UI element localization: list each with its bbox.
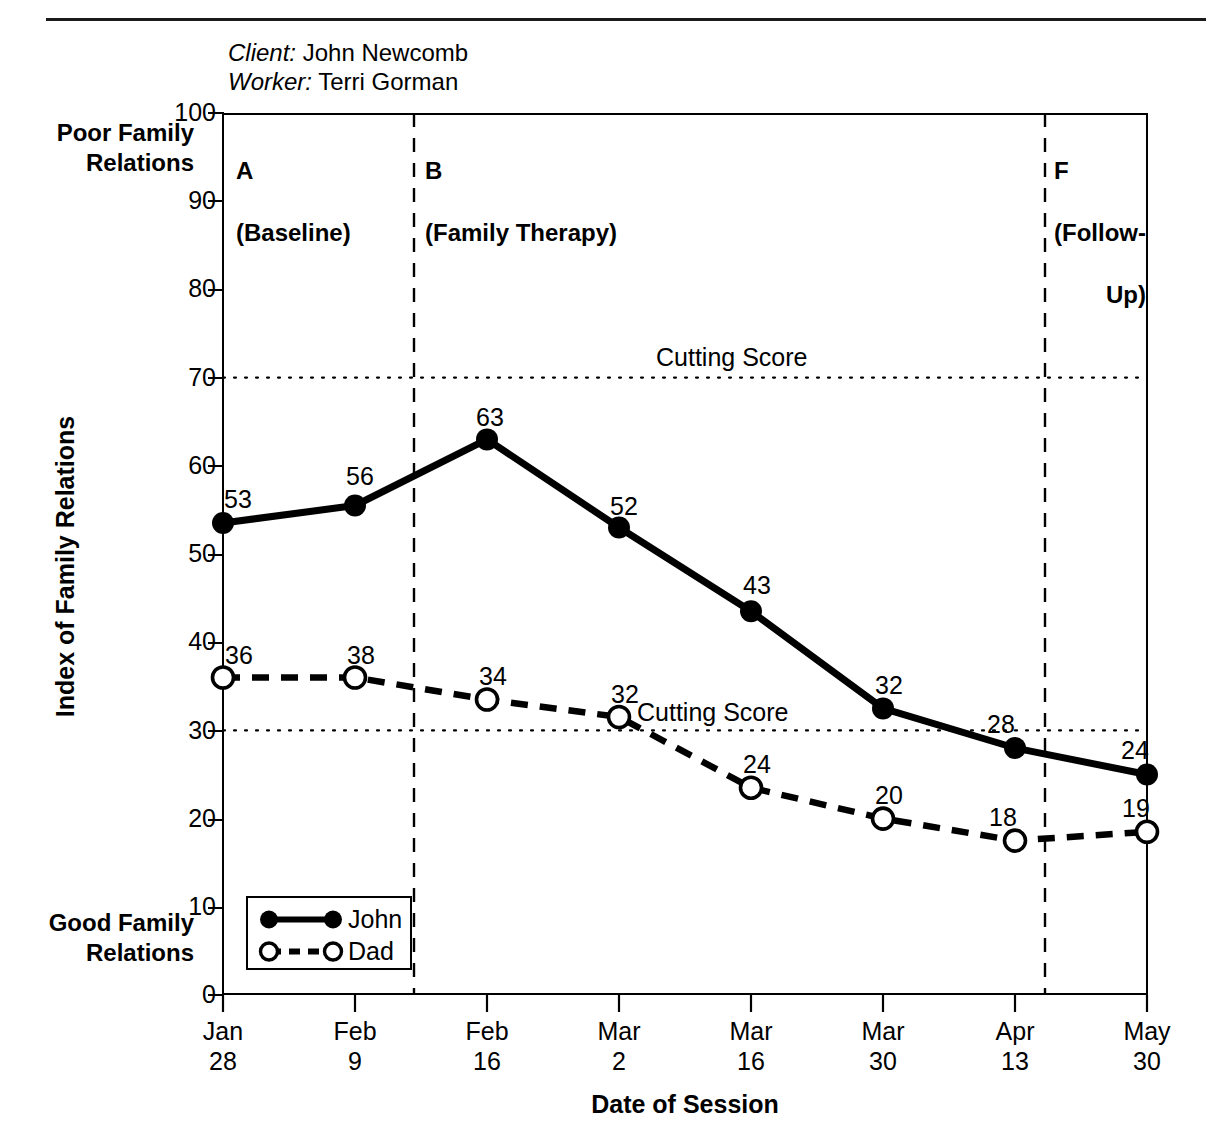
y-tick-label-30: 30 — [146, 718, 216, 743]
x-tick-day-6: 13 — [955, 1046, 1075, 1076]
value-label-dad-7: 19 — [1106, 796, 1166, 821]
x-tick-day-7: 30 — [1087, 1046, 1207, 1076]
x-tick-label-4: Mar 16 — [691, 1016, 811, 1076]
x-tick-day-4: 16 — [691, 1046, 811, 1076]
y-tickmark-30 — [208, 730, 224, 732]
y-tickmark-0 — [208, 994, 224, 996]
y-tickmark-80 — [208, 289, 224, 291]
y-tick-label-80: 80 — [146, 276, 216, 301]
x-tick-day-1: 9 — [295, 1046, 415, 1076]
x-tick-day-3: 2 — [559, 1046, 679, 1076]
value-label-dad-2: 34 — [463, 664, 523, 689]
x-tick-month-7: May — [1123, 1017, 1170, 1045]
y-tick-label-0: 0 — [146, 982, 216, 1007]
y-tick-label-70: 70 — [146, 365, 216, 390]
poor-family-relations-note: Poor FamilyRelations — [26, 118, 194, 178]
x-axis-title: Date of Session — [222, 1090, 1148, 1119]
phase-label-b: B (Family Therapy) — [425, 124, 617, 248]
x-tick-label-0: Jan 28 — [163, 1016, 283, 1076]
y-tick-label-50: 50 — [146, 541, 216, 566]
value-label-john-3: 52 — [594, 494, 654, 519]
x-tick-label-1: Feb 9 — [295, 1016, 415, 1076]
phase-b-letter: B — [425, 157, 442, 184]
value-label-dad-3: 32 — [595, 682, 655, 707]
y-tickmark-20 — [208, 819, 224, 821]
legend-item-john[interactable]: John — [248, 904, 414, 935]
legend-swatch-dad-dashed-line — [258, 936, 344, 967]
line-chart: Index of Family Relations Poor FamilyRel… — [0, 0, 1213, 1134]
legend-label-john: John — [348, 905, 402, 933]
y-tick-label-60: 60 — [146, 453, 216, 478]
y-tickmark-10 — [208, 907, 224, 909]
x-tick-label-7: May 30 — [1087, 1016, 1207, 1076]
x-tick-month-0: Jan — [203, 1017, 243, 1045]
y-tick-label-40: 40 — [146, 629, 216, 654]
y-tickmark-50 — [208, 554, 224, 556]
x-tick-month-4: Mar — [729, 1017, 772, 1045]
y-tickmark-70 — [208, 377, 224, 379]
x-tickmarks — [223, 995, 1147, 1012]
phase-a-letter: A — [236, 157, 253, 184]
phase-label-f: F (Follow- Up) — [1054, 124, 1146, 310]
phase-f-name-line1: (Follow- — [1054, 219, 1146, 246]
y-tick-label-10: 10 — [146, 894, 216, 919]
x-tick-month-5: Mar — [861, 1017, 904, 1045]
value-label-dad-5: 20 — [859, 783, 919, 808]
y-tickmark-60 — [208, 465, 224, 467]
value-label-dad-6: 18 — [973, 805, 1033, 830]
chart-legend: John Dad — [246, 896, 412, 970]
x-tick-month-2: Feb — [465, 1017, 508, 1045]
y-tick-label-90: 90 — [146, 188, 216, 213]
plot-area — [222, 113, 1148, 995]
y-tick-label-20: 20 — [146, 806, 216, 831]
value-label-john-7: 24 — [1105, 738, 1165, 763]
y-tick-label-100: 100 — [146, 100, 216, 125]
x-tick-day-5: 30 — [823, 1046, 943, 1076]
legend-swatch-john-solid-line — [258, 904, 344, 935]
phase-a-name: (Baseline) — [236, 219, 351, 246]
x-tick-month-1: Feb — [333, 1017, 376, 1045]
y-tickmark-90 — [208, 200, 224, 202]
value-label-john-0: 53 — [208, 487, 268, 512]
x-tick-label-6: Apr 13 — [955, 1016, 1075, 1076]
x-tick-month-6: Apr — [996, 1017, 1035, 1045]
cutting-score-label-bottom: Cutting Score — [637, 700, 788, 725]
value-label-dad-4: 24 — [727, 752, 787, 777]
phase-f-name-line2: Up) — [1106, 281, 1146, 308]
y-axis-title: Index of Family Relations — [51, 287, 80, 847]
x-tick-month-3: Mar — [597, 1017, 640, 1045]
legend-item-dad[interactable]: Dad — [248, 936, 414, 967]
x-tick-day-2: 16 — [427, 1046, 547, 1076]
value-label-dad-1: 38 — [331, 643, 391, 668]
value-label-dad-0: 36 — [209, 643, 269, 668]
phase-b-name: (Family Therapy) — [425, 219, 617, 246]
x-tick-day-0: 28 — [163, 1046, 283, 1076]
value-label-john-2: 63 — [460, 405, 520, 430]
y-tickmark-100 — [208, 112, 224, 114]
x-tick-label-5: Mar 30 — [823, 1016, 943, 1076]
x-tick-label-3: Mar 2 — [559, 1016, 679, 1076]
phase-label-a: A (Baseline) — [236, 124, 351, 248]
value-label-john-5: 32 — [859, 673, 919, 698]
legend-label-dad: Dad — [348, 937, 394, 965]
x-tick-label-2: Feb 16 — [427, 1016, 547, 1076]
phase-f-letter: F — [1054, 155, 1146, 186]
value-label-john-1: 56 — [330, 464, 390, 489]
cutting-score-label-top: Cutting Score — [656, 345, 807, 370]
value-label-john-6: 28 — [971, 712, 1031, 737]
value-label-john-4: 43 — [727, 573, 787, 598]
